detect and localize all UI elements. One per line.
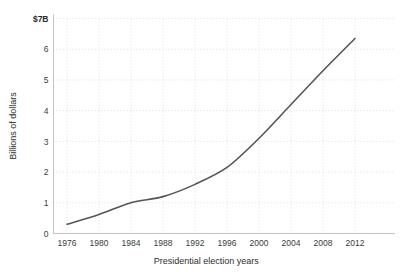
x-axis-tick-label: 1996 [218, 238, 237, 248]
y-axis-tick-label: 2 [44, 167, 49, 177]
y-axis-tick-label: 0 [44, 229, 49, 239]
y-axis-tick-label: 5 [44, 75, 49, 85]
y-axis-tick-label: 6 [44, 44, 49, 54]
line-chart: 0123456$7B197619801984198819921996200020… [0, 0, 401, 272]
chart-canvas: 0123456$7B197619801984198819921996200020… [0, 0, 401, 272]
y-axis-title: Billions of dollars [8, 92, 18, 160]
y-axis-tick-label: 4 [44, 106, 49, 116]
x-axis-tick-label: 1988 [154, 238, 173, 248]
x-axis-tick-label: 1984 [122, 238, 141, 248]
x-axis-tick-label: 2012 [346, 238, 365, 248]
x-axis-tick-label: 2008 [314, 238, 333, 248]
x-axis-tick-label: 2004 [282, 238, 301, 248]
x-axis-tick-label: 2000 [250, 238, 269, 248]
y-axis-tick-label: 1 [44, 198, 49, 208]
x-axis-tick-label: 1980 [90, 238, 109, 248]
data-series-line [67, 38, 355, 224]
x-axis-tick-label: 1976 [58, 238, 77, 248]
y-axis-tick-label: 3 [44, 137, 49, 147]
x-axis-tick-label: 1992 [186, 238, 205, 248]
y-axis-tick-label: $7B [33, 14, 49, 24]
x-axis-title: Presidential election years [154, 256, 260, 266]
